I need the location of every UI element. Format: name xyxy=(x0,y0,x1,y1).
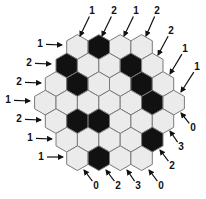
clue-arrow-icon xyxy=(160,150,168,161)
clue-bottom-2: 3 xyxy=(135,180,141,191)
clue-top-1: 2 xyxy=(111,5,117,16)
clue-arrow-icon xyxy=(36,138,52,139)
clue-upper-right-1: 1 xyxy=(182,43,188,54)
clue-top-2: 1 xyxy=(133,5,139,16)
clue-arrow-icon xyxy=(102,16,111,36)
clue-bottom-1: 2 xyxy=(115,180,121,191)
clue-upper-right-2: 1 xyxy=(194,61,200,72)
clue-arrow-icon xyxy=(14,100,30,101)
clue-arrow-icon xyxy=(124,16,133,36)
clue-left-6: 1 xyxy=(38,151,44,162)
clue-bottom-0: 0 xyxy=(93,180,99,191)
clue-bottom-3: 0 xyxy=(158,180,164,191)
hex-grid xyxy=(35,35,185,171)
clue-arrow-icon xyxy=(181,72,194,92)
clue-arrow-icon xyxy=(127,170,135,181)
clue-arrow-icon xyxy=(46,44,62,45)
clue-arrow-icon xyxy=(25,82,41,83)
clue-arrow-icon xyxy=(106,170,114,181)
clue-arrow-icon xyxy=(170,131,178,142)
clue-left-4: 2 xyxy=(16,113,22,124)
clue-arrow-icon xyxy=(80,16,89,36)
hex-puzzle-board: 121221112212110320230 xyxy=(0,0,206,199)
clue-left-0: 1 xyxy=(37,38,43,49)
clue-left-5: 1 xyxy=(27,132,33,143)
clue-left-1: 2 xyxy=(26,57,32,68)
clue-arrow-icon xyxy=(146,17,155,37)
clue-arrow-icon xyxy=(181,113,189,123)
clue-arrow-icon xyxy=(84,170,92,181)
clue-lower-right-0: 0 xyxy=(190,122,196,133)
clue-arrow-icon xyxy=(149,170,157,181)
clue-arrow-icon xyxy=(158,36,168,55)
clue-left-2: 2 xyxy=(16,76,22,87)
clue-lower-right-1: 3 xyxy=(178,141,184,152)
clue-left-3: 1 xyxy=(5,94,11,105)
clue-top-0: 1 xyxy=(89,5,95,16)
clue-upper-right-0: 2 xyxy=(168,25,174,36)
clue-arrow-icon xyxy=(170,54,182,74)
clue-arrow-icon xyxy=(35,63,51,64)
clue-top-3: 2 xyxy=(154,5,160,16)
clue-lower-right-2: 2 xyxy=(169,160,175,171)
clue-arrow-icon xyxy=(25,119,41,120)
